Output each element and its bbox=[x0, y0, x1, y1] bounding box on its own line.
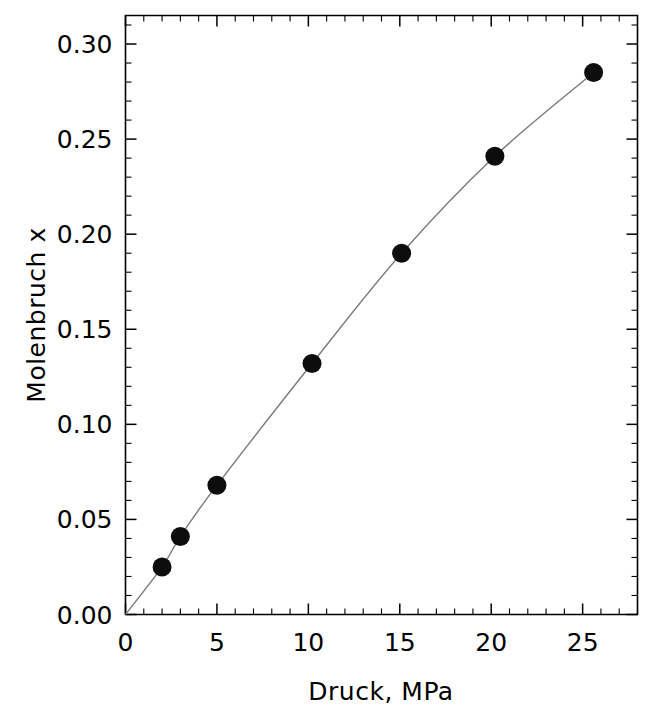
y-tick-label: 0.15 bbox=[57, 315, 113, 344]
axis-frame bbox=[126, 16, 638, 615]
data-point bbox=[392, 244, 411, 263]
data-point bbox=[207, 476, 226, 495]
y-tick-label: 0.10 bbox=[57, 410, 113, 439]
x-tick-label: 25 bbox=[567, 628, 599, 657]
x-tick-label: 0 bbox=[118, 628, 134, 657]
y-axis-tick-labels: 0.000.050.100.150.200.250.30 bbox=[57, 30, 113, 629]
y-tick-label: 0.05 bbox=[57, 505, 113, 534]
plot-area: 0510152025 0.000.050.100.150.200.250.30 … bbox=[0, 0, 665, 720]
x-axis-tick-labels: 0510152025 bbox=[118, 628, 599, 657]
y-tick-label: 0.20 bbox=[57, 220, 113, 249]
data-point bbox=[171, 527, 190, 546]
x-tick-label: 5 bbox=[209, 628, 225, 657]
axis-ticks bbox=[126, 16, 638, 615]
y-tick-label: 0.30 bbox=[57, 30, 113, 59]
y-axis-title: Molenbruch x bbox=[22, 227, 51, 402]
chart-figure: 0510152025 0.000.050.100.150.200.250.30 … bbox=[0, 0, 665, 720]
data-point bbox=[584, 63, 603, 82]
data-series-markers bbox=[153, 63, 604, 576]
x-tick-label: 10 bbox=[292, 628, 324, 657]
y-tick-label: 0.00 bbox=[57, 601, 113, 630]
x-tick-label: 15 bbox=[384, 628, 416, 657]
x-tick-label: 20 bbox=[475, 628, 507, 657]
data-point bbox=[485, 147, 504, 166]
data-point bbox=[303, 354, 322, 373]
y-tick-label: 0.25 bbox=[57, 125, 113, 154]
data-point bbox=[153, 557, 172, 576]
data-series-line bbox=[126, 73, 594, 615]
x-axis-title: Druck, MPa bbox=[308, 677, 453, 706]
